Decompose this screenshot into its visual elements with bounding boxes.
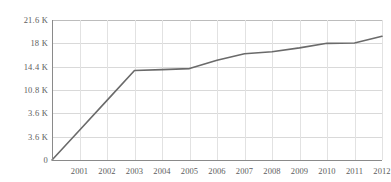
gridline-horizontal: [52, 160, 382, 161]
y-axis-line: [52, 20, 53, 161]
y-axis-tick-label: 0: [44, 155, 48, 165]
x-axis-tick-label: 2008: [263, 166, 280, 176]
x-axis-tick-label: 2012: [373, 166, 390, 176]
x-axis-tick-label: 2003: [126, 166, 143, 176]
x-axis-tick-label: 2001: [71, 166, 88, 176]
x-axis-tick-label: 2009: [291, 166, 308, 176]
x-axis-tick-label: 2007: [236, 166, 253, 176]
y-axis-tick-label: 18 K: [30, 38, 48, 48]
plot-area: [52, 20, 382, 160]
series-line: [52, 20, 382, 160]
x-axis-tick-label: 2002: [98, 166, 115, 176]
x-axis-tick-label: 2011: [346, 166, 363, 176]
x-axis-tick-label: 2006: [208, 166, 225, 176]
y-axis-tick-label: 10.8 K: [24, 85, 48, 95]
gridline-vertical: [382, 20, 383, 160]
y-axis-tick-label: 3.6 K: [28, 132, 48, 142]
x-axis-tick-label: 2010: [318, 166, 335, 176]
x-axis-tick-label: 2005: [181, 166, 198, 176]
x-axis-tick-label: 2004: [153, 166, 170, 176]
y-axis-tick-label: 14.4 K: [24, 62, 48, 72]
y-axis-tick-label: 3.6 K: [28, 108, 48, 118]
y-axis-tick-label: 21.6 K: [24, 15, 48, 25]
